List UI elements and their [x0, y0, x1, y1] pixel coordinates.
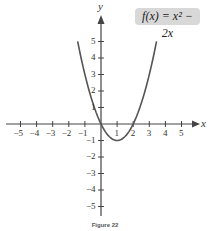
- x-tick-label: −5: [14, 128, 24, 138]
- x-tick-label: 1: [115, 128, 120, 138]
- y-tick-label: −3: [86, 168, 96, 178]
- x-tick-label: −3: [46, 128, 56, 138]
- y-tick-label: 5: [91, 36, 96, 46]
- y-tick-label: −1: [86, 135, 96, 145]
- y-tick-label: 1: [91, 102, 96, 112]
- x-tick-label: −2: [62, 128, 72, 138]
- y-axis-label: y: [98, 0, 103, 12]
- x-axis-arrow-icon: [192, 121, 200, 128]
- figure-caption: Figure 22: [0, 222, 210, 228]
- axes: [6, 15, 200, 216]
- x-tick-label: 5: [179, 128, 184, 138]
- x-tick-label: 3: [147, 128, 152, 138]
- x-tick-label: −4: [30, 128, 40, 138]
- x-tick-label: 2: [131, 128, 136, 138]
- y-tick-label: 4: [91, 52, 96, 62]
- x-tick-label: 4: [163, 128, 168, 138]
- y-tick-label: 2: [91, 85, 96, 95]
- y-tick-label: −4: [86, 184, 96, 194]
- y-tick-label: −5: [86, 201, 96, 211]
- y-axis-arrow-icon: [98, 15, 105, 24]
- y-tick-label: −2: [86, 151, 96, 161]
- y-tick-label: 3: [91, 69, 96, 79]
- function-label-box: f(x) = x² − 2x: [135, 8, 200, 25]
- function-graph: [0, 0, 210, 231]
- x-axis-label: x: [201, 117, 206, 129]
